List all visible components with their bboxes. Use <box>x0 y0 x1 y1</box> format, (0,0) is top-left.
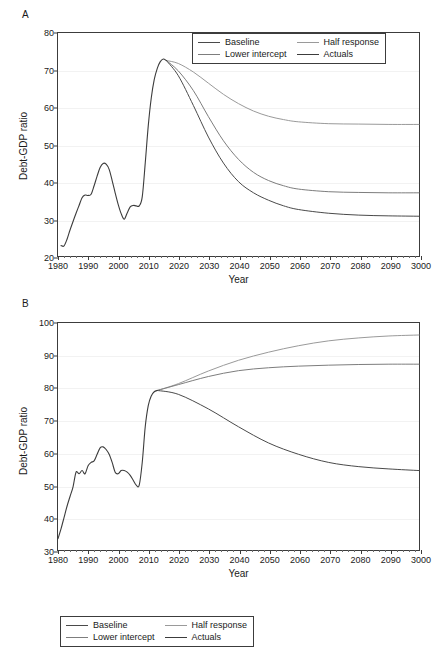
x-tick-minor <box>167 550 168 552</box>
y-tick-label: 90 <box>44 351 54 360</box>
x-tick-mark <box>421 256 422 260</box>
legend-item-baseline[interactable]: Baseline <box>66 620 155 631</box>
x-tick-minor <box>373 256 374 258</box>
legend-item-half-response[interactable]: Half response <box>297 37 380 48</box>
x-tick-minor <box>94 550 95 552</box>
x-tick-label: 2070 <box>320 555 340 565</box>
x-tick-minor <box>215 550 216 552</box>
x-tick-minor <box>276 550 277 552</box>
x-tick-minor <box>336 550 337 552</box>
x-tick-minor <box>324 550 325 552</box>
panel-a-series-lines <box>58 33 419 256</box>
legend-swatch-half-response <box>297 42 319 43</box>
y-tick-label: 60 <box>44 104 54 113</box>
x-tick-minor <box>76 256 77 258</box>
x-tick-minor <box>385 256 386 258</box>
x-tick-minor <box>215 256 216 258</box>
x-tick-minor <box>312 256 313 258</box>
x-tick-minor <box>70 550 71 552</box>
legend-item-actuals[interactable]: Actuals <box>297 49 380 60</box>
x-tick-mark <box>300 256 301 260</box>
x-tick-minor <box>294 256 295 258</box>
x-tick-label: 2030 <box>199 261 219 271</box>
x-tick-minor <box>276 256 277 258</box>
x-tick-mark <box>361 256 362 260</box>
x-tick-minor <box>70 256 71 258</box>
legend-item-half-response[interactable]: Half response <box>165 620 248 631</box>
x-tick-mark <box>119 550 120 554</box>
series-line-half-response <box>157 335 419 390</box>
x-tick-mark <box>330 550 331 554</box>
x-tick-minor <box>203 256 204 258</box>
x-tick-minor <box>409 550 410 552</box>
x-tick-label: 1980 <box>48 261 68 271</box>
x-tick-minor <box>397 550 398 552</box>
x-tick-label: 2070 <box>320 261 340 271</box>
x-tick-mark <box>58 550 59 554</box>
x-tick-minor <box>367 550 368 552</box>
y-tick-label: 30 <box>44 216 54 225</box>
panel-a-legend: Baseline Half response Lower intercept A… <box>192 33 386 64</box>
legend-label-half-response: Half response <box>324 37 380 48</box>
series-line-lower-intercept <box>157 364 419 390</box>
x-tick-minor <box>100 256 101 258</box>
x-tick-minor <box>167 256 168 258</box>
x-tick-mark <box>361 550 362 554</box>
x-tick-mark <box>240 256 241 260</box>
x-tick-minor <box>415 256 416 258</box>
x-tick-mark <box>149 550 150 554</box>
x-tick-minor <box>106 550 107 552</box>
x-tick-minor <box>306 256 307 258</box>
panel-a-x-axis-title: Year <box>58 274 419 285</box>
legend-label-half-response: Half response <box>192 620 248 631</box>
x-tick-mark <box>391 256 392 260</box>
x-tick-minor <box>125 256 126 258</box>
x-tick-minor <box>348 550 349 552</box>
x-tick-minor <box>94 256 95 258</box>
panel-a-y-axis-title: Debt-GDP ratio <box>18 112 29 180</box>
x-tick-label: 2080 <box>350 261 370 271</box>
x-tick-minor <box>203 550 204 552</box>
x-tick-mark <box>88 256 89 260</box>
x-tick-minor <box>161 550 162 552</box>
legend-item-lower-intercept[interactable]: Lower intercept <box>66 632 155 643</box>
y-tick-label: 70 <box>44 417 54 426</box>
x-tick-mark <box>240 550 241 554</box>
x-tick-minor <box>143 550 144 552</box>
x-tick-minor <box>415 550 416 552</box>
series-line-actuals <box>58 390 157 538</box>
x-tick-minor <box>233 256 234 258</box>
x-tick-minor <box>348 256 349 258</box>
legend-label-actuals: Actuals <box>324 49 354 60</box>
y-tick-label: 80 <box>44 384 54 393</box>
x-tick-minor <box>409 256 410 258</box>
x-tick-label: 2080 <box>350 555 370 565</box>
x-tick-mark <box>270 550 271 554</box>
x-tick-label: 2050 <box>260 261 280 271</box>
x-tick-minor <box>137 256 138 258</box>
x-tick-minor <box>173 256 174 258</box>
x-tick-minor <box>191 256 192 258</box>
x-tick-minor <box>403 550 404 552</box>
legend-item-actuals[interactable]: Actuals <box>165 632 248 643</box>
x-tick-label: 2090 <box>381 261 401 271</box>
y-tick-label: 50 <box>44 482 54 491</box>
x-tick-mark <box>179 256 180 260</box>
x-tick-label: 2040 <box>229 261 249 271</box>
x-tick-label: 2060 <box>290 555 310 565</box>
legend-item-lower-intercept[interactable]: Lower intercept <box>198 49 287 60</box>
x-tick-minor <box>379 550 380 552</box>
x-tick-minor <box>318 256 319 258</box>
x-tick-minor <box>342 256 343 258</box>
x-tick-label: 2060 <box>290 261 310 271</box>
x-tick-minor <box>155 550 156 552</box>
legend-item-baseline[interactable]: Baseline <box>198 37 287 48</box>
x-tick-minor <box>106 256 107 258</box>
x-tick-minor <box>246 550 247 552</box>
x-tick-minor <box>112 550 113 552</box>
x-tick-minor <box>252 550 253 552</box>
x-tick-minor <box>312 550 313 552</box>
panel-b-plot-area: 30405060708090100 1980199020002010202020… <box>57 322 420 551</box>
x-tick-label: 2000 <box>108 555 128 565</box>
y-tick-label: 50 <box>44 141 54 150</box>
